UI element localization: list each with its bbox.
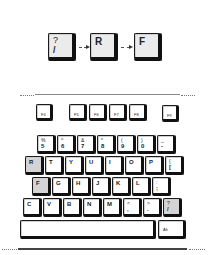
key-alt: Alt (158, 220, 186, 239)
key-semicolon: :; (152, 177, 171, 196)
key-slash: ?/ (163, 198, 182, 217)
key-bottom-char: . (147, 206, 149, 212)
key-n: N (83, 198, 102, 217)
key-top-char: ? (53, 36, 58, 45)
key-comma: <, (123, 198, 142, 217)
key-f4: F4 (36, 104, 53, 121)
key-label: M (107, 201, 112, 207)
key-bottom-char: 0 (141, 143, 144, 149)
key-label: V (47, 201, 51, 207)
key-label: T (49, 159, 53, 165)
key-t: T (45, 156, 64, 175)
divider-dots-left (20, 95, 34, 97)
key-bottom-char: 7 (81, 143, 84, 149)
key-period: >. (143, 198, 162, 217)
key-k: K (112, 177, 131, 196)
key-label: R (95, 37, 102, 47)
key-bottom-char: / (53, 46, 56, 55)
key-y: Y (65, 156, 84, 175)
key-7: &7 (77, 135, 96, 154)
key-spacebar (20, 220, 156, 239)
key-f-large: F (134, 33, 162, 61)
key-bottom-char: / (167, 206, 169, 212)
key-r: R (25, 156, 44, 175)
key-b: B (63, 198, 82, 217)
key-bottom-char: ; (156, 185, 158, 191)
key-label: Alt (163, 228, 168, 232)
key-m: M (103, 198, 122, 217)
key-label: U (89, 159, 93, 165)
key-bottom-char: 8 (101, 143, 104, 149)
key-v: V (43, 198, 62, 217)
key-f8: F8 (129, 104, 147, 121)
key-c: C (23, 198, 42, 217)
key-label: Y (69, 159, 73, 165)
key-label: B (67, 201, 71, 207)
key-f6: F6 (89, 104, 107, 121)
key-label: I (109, 159, 111, 165)
key-label: P (149, 159, 153, 165)
key-bottom-char: , (127, 206, 129, 212)
key-bottom-char: - (161, 143, 163, 149)
key-label: F (36, 180, 40, 186)
key-9: (9 (117, 135, 136, 154)
key-label: H (76, 180, 80, 186)
key-o: O (125, 156, 144, 175)
divider-top (35, 94, 180, 95)
divider-dots-right (181, 95, 195, 97)
key-u: U (85, 156, 104, 175)
key-label: K (116, 180, 120, 186)
key-0: )0 (137, 135, 156, 154)
key-bottom-char: 9 (121, 143, 124, 149)
key-f5: F5 (69, 104, 87, 121)
key-i: I (105, 156, 124, 175)
key-8: *8 (97, 135, 116, 154)
key-label: F (139, 37, 145, 47)
key-bottom-char: 6 (61, 143, 64, 149)
key-r-large: R (90, 33, 118, 61)
key-h: H (72, 177, 91, 196)
arrow-icon (121, 47, 130, 48)
key-5: %5 (37, 135, 56, 154)
arrow-icon (79, 47, 87, 48)
key-label: F4 (41, 113, 46, 117)
key-label: G (56, 180, 61, 186)
key-label: C (27, 201, 31, 207)
key-bottom-char: 5 (41, 143, 44, 149)
key-label: L (136, 180, 140, 186)
divider-dots-right (189, 249, 205, 251)
key-bottom-char: [ (169, 164, 171, 170)
key-label: F6 (94, 113, 99, 117)
key-j: J (92, 177, 111, 196)
key-6: ^6 (57, 135, 76, 154)
key-p: P (145, 156, 164, 175)
key-f9: F9 (162, 105, 179, 122)
key-label: F7 (114, 113, 119, 117)
key-label: F9 (167, 114, 172, 118)
key-label: F5 (74, 113, 79, 117)
key-label: O (129, 159, 134, 165)
key-minus: _- (157, 135, 176, 154)
key-bracket: {[ (165, 156, 184, 175)
key-f7: F7 (109, 104, 127, 121)
divider-bottom (18, 248, 187, 250)
key-question-slash: ? / (48, 33, 76, 61)
key-g: G (52, 177, 71, 196)
key-label: R (29, 159, 33, 165)
key-l: L (132, 177, 151, 196)
divider-dots-left (2, 249, 17, 251)
key-f: F (32, 177, 51, 196)
key-label: F8 (134, 113, 139, 117)
key-label: J (96, 180, 99, 186)
key-label: N (87, 201, 91, 207)
